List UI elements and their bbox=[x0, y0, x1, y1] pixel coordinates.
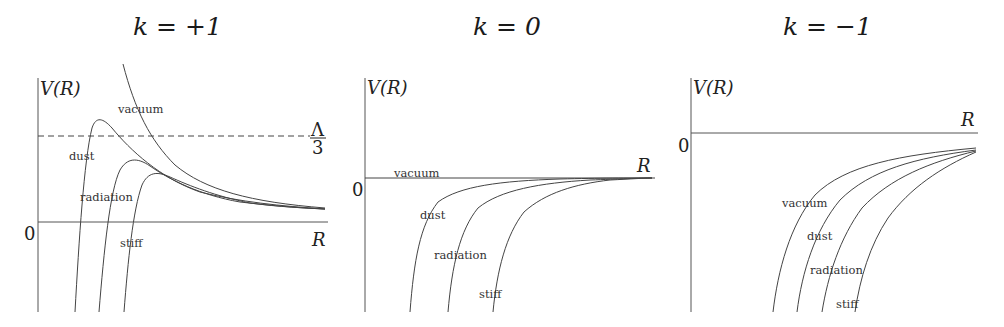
curve-vacuum bbox=[773, 148, 976, 312]
panel-k-plus-1-labels: V(R) R 0 Λ 3 vacuum dust radiation stiff bbox=[24, 78, 326, 250]
label-dust: dust bbox=[807, 229, 833, 243]
lambda-denominator: 3 bbox=[312, 137, 323, 158]
label-stiff: stiff bbox=[836, 297, 859, 311]
y-axis-label: V(R) bbox=[367, 77, 408, 98]
label-dust: dust bbox=[69, 149, 95, 163]
label-vacuum: vacuum bbox=[117, 102, 164, 116]
origin-label: 0 bbox=[24, 223, 35, 244]
panel-k-0-labels: V(R) R 0 vacuum dust radiation stiff bbox=[352, 77, 651, 301]
x-axis-label: R bbox=[311, 229, 326, 250]
label-radiation: radiation bbox=[434, 248, 487, 262]
label-radiation: radiation bbox=[80, 190, 133, 204]
panel-k-0 bbox=[365, 78, 655, 312]
curve-dust bbox=[75, 120, 325, 312]
y-axis-label: V(R) bbox=[40, 78, 81, 99]
chart-canvas: V(R) R 0 Λ 3 vacuum dust radiation stiff… bbox=[0, 0, 1004, 327]
origin-label: 0 bbox=[678, 135, 689, 156]
x-axis-label: R bbox=[960, 109, 975, 130]
label-vacuum: vacuum bbox=[781, 196, 828, 210]
panel-k-minus-1-labels: V(R) R 0 vacuum dust radiation stiff bbox=[678, 77, 975, 311]
origin-label: 0 bbox=[352, 179, 363, 200]
y-axis-label: V(R) bbox=[693, 77, 734, 98]
label-vacuum: vacuum bbox=[393, 166, 440, 180]
label-stiff: stiff bbox=[120, 236, 143, 250]
x-axis-label: R bbox=[636, 155, 651, 176]
label-dust: dust bbox=[420, 208, 446, 222]
curve-dust bbox=[410, 178, 652, 312]
label-radiation: radiation bbox=[810, 263, 863, 277]
panel-k-plus-1 bbox=[38, 64, 328, 312]
curve-stiff bbox=[124, 173, 325, 312]
curve-stiff bbox=[493, 178, 652, 312]
label-stiff: stiff bbox=[479, 287, 502, 301]
